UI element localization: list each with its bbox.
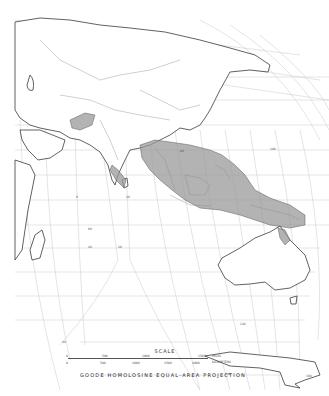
svg-text:100: 100 bbox=[270, 147, 276, 151]
km-unit: KILOMETERS bbox=[212, 360, 231, 364]
map-canvas: 40 20 0 20 40 60 80 100 120 140 160 bbox=[0, 0, 329, 396]
svg-text:80: 80 bbox=[180, 149, 184, 153]
scale-title: SCALE bbox=[60, 348, 270, 354]
svg-text:40: 40 bbox=[88, 245, 92, 249]
australia bbox=[218, 226, 310, 304]
km-tick: 1000 bbox=[132, 361, 140, 365]
svg-text:40: 40 bbox=[62, 340, 66, 344]
svg-text:160: 160 bbox=[306, 374, 312, 378]
miles-unit: MILES bbox=[212, 354, 221, 358]
svg-text:60: 60 bbox=[88, 227, 92, 231]
km-tick: 2000 bbox=[192, 361, 200, 365]
svg-text:20: 20 bbox=[126, 195, 130, 199]
projection-caption: GOODE HOMOLOSINE EQUAL-AREA PROJECTION bbox=[80, 372, 246, 378]
svg-text:0: 0 bbox=[76, 195, 78, 199]
km-tick: 500 bbox=[100, 361, 106, 365]
scale-bar bbox=[68, 358, 208, 359]
svg-text:20: 20 bbox=[118, 245, 122, 249]
antarctica bbox=[205, 352, 320, 388]
km-tick: 1500 bbox=[164, 361, 172, 365]
eurasia bbox=[15, 18, 270, 185]
svg-text:120: 120 bbox=[240, 322, 246, 326]
km-tick: 0 bbox=[66, 361, 68, 365]
